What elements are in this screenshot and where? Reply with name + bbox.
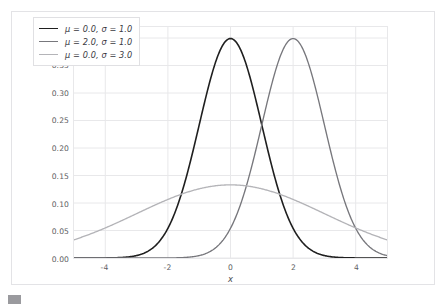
caption-bullet-icon xyxy=(8,295,21,304)
figure-card: 0.40 0.35 0.30 0.25 0.20 0.15 0.10 0.05 … xyxy=(11,11,435,285)
curve-line xyxy=(74,39,387,258)
legend-item-label: μ = 0.0, σ = 3.0 xyxy=(65,50,132,60)
legend-swatch-icon xyxy=(39,41,58,42)
x-tick-label: -2 xyxy=(164,263,172,272)
y-tick-label: 0.20 xyxy=(52,144,69,153)
legend-item-label: μ = 2.0, σ = 1.0 xyxy=(65,37,132,47)
curve-line xyxy=(74,39,387,258)
y-tick-label: 0.00 xyxy=(52,255,69,264)
x-tick-label: 4 xyxy=(354,263,359,272)
y-tick-label: 0.15 xyxy=(52,171,69,180)
page-root: 0.40 0.35 0.30 0.25 0.20 0.15 0.10 0.05 … xyxy=(0,0,446,304)
legend-swatch-icon xyxy=(39,54,58,55)
x-tick-label: -4 xyxy=(101,263,109,272)
y-tick-label: 0.10 xyxy=(52,199,69,208)
y-tick-label: 0.30 xyxy=(52,88,69,97)
legend-swatch-icon xyxy=(39,28,58,29)
y-tick-label: 0.25 xyxy=(52,116,69,125)
legend: μ = 0.0, σ = 1.0 μ = 2.0, σ = 1.0 μ = 0.… xyxy=(33,17,140,66)
legend-item-label: μ = 0.0, σ = 1.0 xyxy=(65,24,132,34)
x-tick-label: 0 xyxy=(228,263,233,272)
legend-item: μ = 0.0, σ = 3.0 xyxy=(39,48,132,61)
caption-strip xyxy=(0,293,446,304)
y-tick-label: 0.05 xyxy=(52,227,69,236)
legend-item: μ = 2.0, σ = 1.0 xyxy=(39,35,132,48)
x-tick-label: 2 xyxy=(291,263,296,272)
x-axis-label: x xyxy=(73,274,388,284)
legend-item: μ = 0.0, σ = 1.0 xyxy=(39,22,132,35)
curve-line xyxy=(74,185,387,240)
